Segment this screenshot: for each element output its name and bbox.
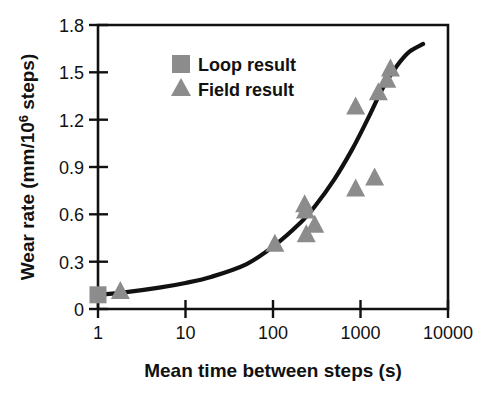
y-axis-title: Wear rate (mm/106 steps) — [16, 54, 38, 281]
x-tick-label-2: 100 — [258, 323, 288, 343]
y-tick-label-5: 1.5 — [59, 63, 84, 83]
legend-square-marker-icon — [172, 55, 190, 73]
x-tick-label-1: 10 — [175, 323, 195, 343]
data-point-square — [90, 286, 107, 303]
svg-text:Wear rate (mm/106 steps): Wear rate (mm/106 steps) — [16, 54, 38, 281]
y-axis-title-superscript: 6 — [16, 115, 31, 122]
x-tick-label-0: 1 — [93, 323, 103, 343]
y-tick-label-3: 0.9 — [59, 158, 84, 178]
x-axis-title: Mean time between steps (s) — [144, 360, 402, 381]
y-tick-label-1: 0.3 — [59, 253, 84, 273]
y-tick-label-0: 0 — [74, 300, 84, 320]
legend-label-loop-result: Loop result — [198, 55, 296, 75]
y-tick-label-2: 0.6 — [59, 205, 84, 225]
y-axis-title-prefix: Wear rate (mm/10 — [17, 122, 38, 280]
y-tick-label-6: 1.8 — [59, 16, 84, 36]
wear-rate-chart: 0 0.3 0.6 0.9 1.2 1.5 1.8 1 10 100 1000 … — [0, 0, 487, 397]
x-tick-label-3: 1000 — [340, 323, 380, 343]
y-tick-label-4: 1.2 — [59, 111, 84, 131]
legend-label-field-result: Field result — [198, 80, 294, 100]
x-tick-label-4: 10000 — [423, 323, 473, 343]
y-axis-title-suffix: steps) — [17, 54, 38, 115]
